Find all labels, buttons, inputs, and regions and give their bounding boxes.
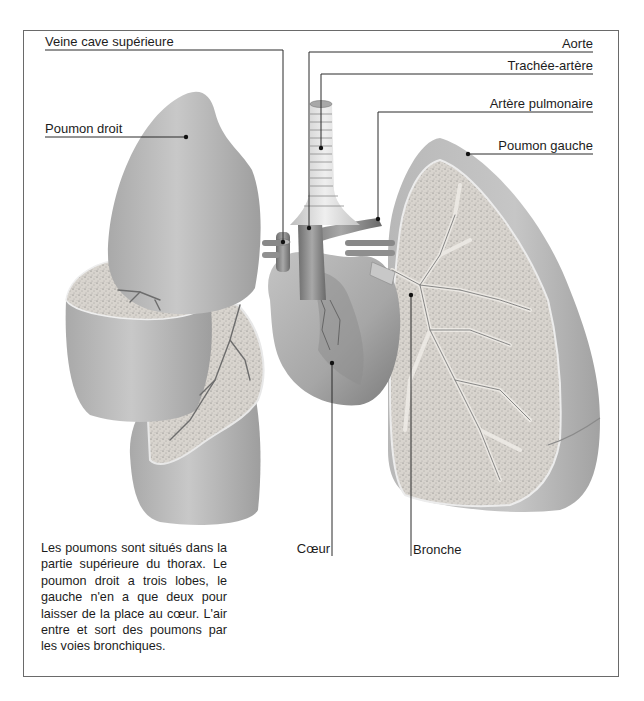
label-poumon-gauche: Poumon gauche	[498, 138, 593, 153]
left-lung	[388, 138, 600, 512]
figure-caption: Les poumons sont situés dans la partie s…	[41, 540, 227, 655]
label-coeur: Cœur	[297, 541, 330, 556]
trachea	[290, 101, 360, 226]
label-aorte: Aorte	[562, 36, 593, 51]
right-lung	[66, 92, 264, 525]
label-poumon-droit: Poumon droit	[45, 121, 122, 136]
label-trachee-artere: Trachée-artère	[508, 58, 594, 73]
label-bronche: Bronche	[413, 542, 461, 557]
label-veine-cave-superieure: Veine cave supérieure	[45, 34, 174, 49]
caption-text: Les poumons sont situés dans la partie s…	[41, 540, 227, 655]
label-artere-pulmonaire: Artère pulmonaire	[490, 96, 593, 111]
